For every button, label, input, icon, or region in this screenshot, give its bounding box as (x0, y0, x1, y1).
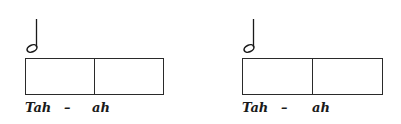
rhythm-box (242, 58, 383, 95)
syllable-tah: Tah (25, 100, 51, 115)
syllable-tah: Tah (242, 100, 268, 115)
beat-divider (94, 59, 95, 94)
syllable-dash: – (64, 100, 71, 115)
half-note-icon (241, 18, 257, 54)
half-note-icon (24, 18, 40, 54)
beat-divider (312, 59, 313, 94)
rhythm-group-2: Tah – ah (200, 0, 401, 124)
syllable-ah: ah (92, 100, 110, 115)
syllable-dash: – (281, 100, 288, 115)
rhythm-group-1: Tah – ah (0, 0, 200, 124)
rhythm-box (25, 58, 164, 95)
syllable-ah: ah (312, 100, 330, 115)
